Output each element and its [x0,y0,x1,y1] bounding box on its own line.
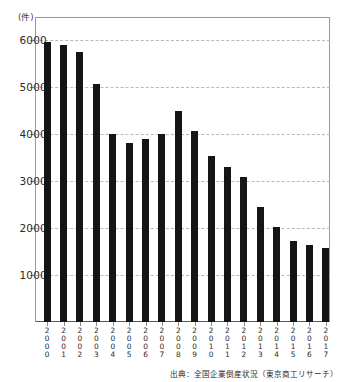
source-note: 出典：全国企業倒産状況（東京商工リサーチ） [0,368,338,379]
x-axis-tick-label: 2014 [272,327,282,359]
x-axis-tick-label: 2008 [173,327,183,359]
x-axis-tick-label: 2003 [91,327,101,359]
bar [109,134,116,322]
x-axis-tick-label: 2007 [157,327,167,359]
bar [273,227,280,322]
x-axis-tick-label: 2017 [321,327,331,359]
x-axis-tick-label: 2001 [59,327,69,359]
bar [158,134,165,322]
bar [224,167,231,322]
bar [142,139,149,322]
x-axis-tick-label: 2015 [288,327,298,359]
bar [60,45,67,322]
x-axis-tick-label: 2013 [255,327,265,359]
bar [257,207,264,322]
x-axis-tick-label: 2000 [42,327,52,359]
bars-group [35,17,330,322]
y-axis-unit-label: (件) [18,10,34,22]
bar [126,143,133,322]
x-axis-tick-label: 2004 [108,327,118,359]
x-axis-tick-label: 2010 [206,327,216,359]
bar [208,156,215,322]
x-axis-tick-label: 2016 [304,327,314,359]
x-axis-tick-label: 2005 [124,327,134,359]
x-axis-tick-label: 2006 [141,327,151,359]
bar [93,84,100,322]
x-axis-tick-label: 2002 [75,327,85,359]
bar [44,42,51,322]
bar [322,248,329,322]
x-axis-tick-label: 2011 [222,327,232,359]
bar [240,177,247,322]
bankruptcy-bar-chart: (件) 100020003000400050006000 20002001200… [0,0,344,382]
bar [175,111,182,322]
bar [290,241,297,322]
x-axis-tick-label: 2009 [190,327,200,359]
x-axis-tick-label: 2012 [239,327,249,359]
bar [76,52,83,322]
bar [306,245,313,322]
bar [191,131,198,322]
